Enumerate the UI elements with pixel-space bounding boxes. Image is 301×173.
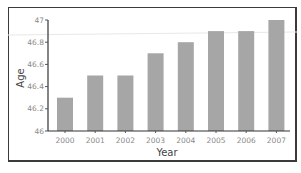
bar-2004 (178, 42, 194, 131)
x-tick-label: 2002 (116, 136, 135, 145)
bar-2007 (268, 20, 284, 131)
bar-2002 (117, 76, 133, 132)
y-tick-label: 46 (34, 127, 44, 136)
bar-2000 (57, 98, 73, 131)
bar-2001 (87, 76, 103, 132)
bar-2006 (238, 31, 254, 131)
bars (57, 20, 284, 131)
y-tick-label: 47 (34, 16, 44, 25)
y-ticks: 4646.246.446.646.847 (27, 16, 48, 136)
x-tick-label: 2003 (146, 136, 165, 145)
y-tick-label: 46.6 (27, 60, 44, 69)
x-tick-label: 2006 (237, 136, 256, 145)
bar-chart: 4646.246.446.646.847 2000200120022003200… (0, 0, 301, 173)
y-axis-title: Age (15, 68, 26, 87)
x-ticks: 20002001200220032004200520062007 (55, 131, 286, 145)
y-tick-label: 46.8 (27, 38, 44, 47)
y-tick-label: 46.4 (27, 82, 44, 91)
x-tick-label: 2005 (206, 136, 225, 145)
x-tick-label: 2007 (267, 136, 286, 145)
x-tick-label: 2000 (55, 136, 74, 145)
bar-2003 (148, 53, 164, 131)
bar-2005 (208, 31, 224, 131)
x-tick-label: 2001 (86, 136, 105, 145)
x-axis-title: Year (155, 147, 178, 158)
y-tick-label: 46.2 (27, 104, 44, 113)
x-tick-label: 2004 (176, 136, 195, 145)
